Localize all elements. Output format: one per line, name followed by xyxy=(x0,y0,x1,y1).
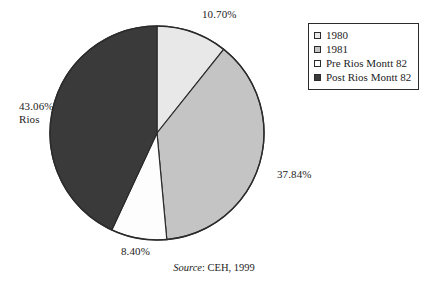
legend-item-pre-rios-montt-82[interactable]: Pre Rios Montt 82 xyxy=(314,56,411,70)
source-caption-text: : CEH, 1999 xyxy=(202,262,255,273)
source-caption-word: Source xyxy=(173,262,202,273)
pie-chart-svg xyxy=(49,25,265,241)
legend-label-1980: 1980 xyxy=(326,28,348,42)
source-caption: Source: CEH, 1999 xyxy=(0,262,428,273)
slice-label-1981-value: 37.84% xyxy=(277,168,312,180)
legend-swatch-1980 xyxy=(314,32,321,39)
slice-label-post-rios-montt-82-sublabel: Rios xyxy=(19,113,54,126)
legend-swatch-pre-rios-montt-82 xyxy=(314,60,321,67)
legend-item-post-rios-montt-82[interactable]: Post Rios Montt 82 xyxy=(314,70,411,84)
slice-label-pre-rios-montt-82-value: 8.40% xyxy=(121,245,150,257)
slice-label-post-rios-montt-82: 43.06% Rios xyxy=(19,100,54,126)
legend-label-pre-rios-montt-82: Pre Rios Montt 82 xyxy=(326,56,407,70)
legend-item-1981[interactable]: 1981 xyxy=(314,42,411,56)
legend-item-1980[interactable]: 1980 xyxy=(314,28,411,42)
slice-label-1980-value: 10.70% xyxy=(202,8,237,20)
legend-swatch-post-rios-montt-82 xyxy=(314,74,321,81)
legend-label-post-rios-montt-82: Post Rios Montt 82 xyxy=(326,70,411,84)
slice-label-1981: 37.84% xyxy=(277,168,312,181)
legend-label-1981: 1981 xyxy=(326,42,348,56)
legend: 1980 1981 Pre Rios Montt 82 Post Rios Mo… xyxy=(308,23,419,90)
pie-chart xyxy=(49,25,265,241)
slice-label-pre-rios-montt-82: 8.40% xyxy=(121,245,150,258)
slice-label-1980: 10.70% xyxy=(202,8,237,21)
legend-swatch-1981 xyxy=(314,46,321,53)
slice-label-post-rios-montt-82-value: 43.06% xyxy=(19,100,54,112)
pie-slice-group xyxy=(50,26,264,240)
